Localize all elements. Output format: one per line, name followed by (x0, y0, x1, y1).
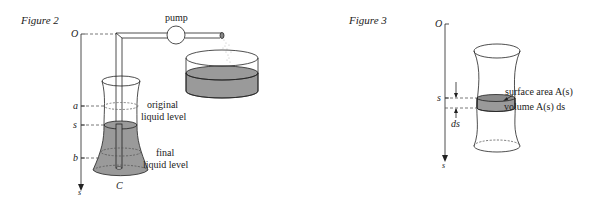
figure2-title: Figure 2 (21, 15, 59, 26)
figures-canvas (0, 0, 609, 199)
surface-area-label: surface area A(s) (505, 87, 573, 97)
container-c (93, 76, 148, 176)
level-s-label: s (73, 120, 77, 130)
ds-label: ds (451, 119, 460, 129)
volume-label: volume A(s) ds (504, 102, 565, 112)
fig3-level-s-label: s (437, 93, 441, 103)
axis-s-label: s (78, 189, 81, 197)
original-level-label-1: original (147, 100, 178, 110)
liquid-spray (222, 39, 231, 62)
final-level-label-2: liquid level (143, 160, 188, 170)
figure3-title: Figure 3 (349, 15, 387, 26)
container-c-label: C (116, 181, 123, 191)
pump-label: pump (165, 13, 188, 23)
fig3-axis-s-label: s (442, 162, 445, 170)
axis-origin-label: O (71, 29, 78, 39)
fig3-axis-origin-label: O (435, 19, 442, 29)
hourglass-container (474, 44, 520, 152)
original-level-label-2: liquid level (141, 112, 186, 122)
final-level-label-1: final (156, 148, 174, 158)
level-b-label: b (73, 153, 78, 163)
pump-icon (167, 26, 185, 44)
ds-arrow-up-icon (454, 108, 458, 113)
receiving-tank (186, 50, 258, 98)
level-a-label: a (73, 101, 78, 111)
ds-arrow-down-icon (454, 93, 458, 98)
